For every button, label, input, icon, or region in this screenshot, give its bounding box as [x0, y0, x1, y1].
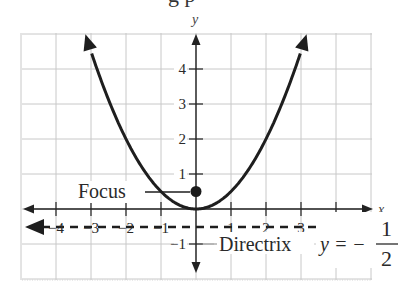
x-tick-label: −3 — [83, 220, 99, 236]
y-tick-label: 4 — [179, 61, 187, 77]
parabola-left-arrow-icon — [84, 34, 97, 51]
directrix-equation-denominator: 2 — [381, 246, 392, 271]
cropped-title-fragment: g p — [168, 0, 196, 7]
y-ticks: −11234 — [170, 61, 203, 252]
y-tick-label: −1 — [170, 236, 186, 252]
y-tick-label: 1 — [179, 166, 187, 182]
x-tick-label: −2 — [118, 220, 134, 236]
y-tick-label: 2 — [179, 131, 187, 147]
y-axis-up-arrow-icon — [192, 34, 201, 45]
x-axis-left-arrow-icon — [23, 205, 34, 214]
parabola-right-arrow-icon — [295, 34, 308, 51]
y-axis-down-arrow-icon — [192, 262, 201, 273]
directrix-left-arrow-icon — [25, 219, 44, 235]
parabola-chart: g p x y −4−3−2−11234 −11234 Focus — [0, 0, 400, 292]
y-axis-label: y — [190, 12, 199, 27]
x-ticks: −4−3−2−11234 — [48, 202, 340, 236]
focus-point — [191, 186, 202, 197]
focus-label: Focus — [78, 180, 126, 202]
x-tick-label: −1 — [153, 220, 169, 236]
directrix-equation-lhs: y = − — [318, 233, 366, 256]
directrix-label: Directrix — [219, 233, 291, 255]
focus-annotation: Focus — [76, 180, 202, 203]
y-tick-label: 3 — [179, 96, 187, 112]
y-axis: y — [190, 12, 201, 273]
x-tick-label: −4 — [48, 220, 64, 236]
directrix-equation-numerator: 1 — [381, 216, 392, 241]
